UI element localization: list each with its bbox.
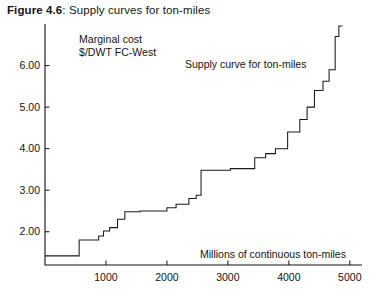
- figure-caption-label: Figure 4.6: [7, 4, 62, 16]
- y-axis-tick-label: 6.00: [6, 59, 40, 71]
- figure-container: Figure 4.6: Supply curves for ton-miles …: [0, 0, 383, 308]
- y-axis-title-line2: $/DWT FC-West: [79, 46, 156, 59]
- figure-caption-text: : Supply curves for ton-miles: [62, 4, 210, 16]
- series-label-supply-curve: Supply curve for ton-miles: [185, 58, 306, 71]
- y-axis-tick-label: 2.00: [6, 225, 40, 237]
- figure-caption: Figure 4.6: Supply curves for ton-miles: [7, 4, 210, 16]
- y-axis-title-line1: Marginal cost: [79, 33, 156, 46]
- y-axis-tick-label: 4.00: [6, 142, 40, 154]
- y-axis-tick-label: 5.00: [6, 101, 40, 113]
- x-axis-tick-label: 1000: [86, 271, 126, 283]
- y-axis-tick-label: 3.00: [6, 184, 40, 196]
- y-axis-title: Marginal cost $/DWT FC-West: [79, 33, 156, 58]
- x-axis-tick-label: 4000: [269, 271, 309, 283]
- x-axis-title: Millions of continuous ton-miles: [200, 248, 346, 261]
- chart-plot-area: Marginal cost $/DWT FC-West Supply curve…: [0, 18, 383, 308]
- x-axis-tick-label: 2000: [147, 271, 187, 283]
- x-axis-tick-label: 5000: [330, 271, 370, 283]
- x-axis-tick-label: 3000: [208, 271, 248, 283]
